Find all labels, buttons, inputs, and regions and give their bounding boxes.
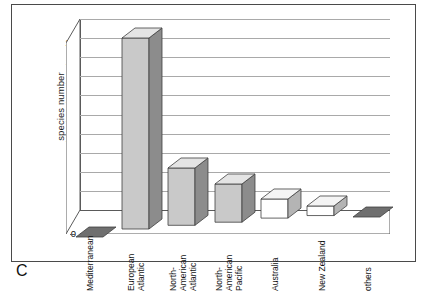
bar	[74, 218, 118, 241]
chart-figure-frame: species number 02468101214161820 Mediter…	[11, 4, 416, 262]
bar	[120, 24, 164, 238]
bar	[213, 170, 257, 231]
x-tick-label: Mediterranean	[85, 236, 95, 291]
bar-series: MediterraneanEuropean AtlanticNorth- Ame…	[12, 5, 428, 299]
bar	[351, 198, 395, 221]
panel-letter: C	[16, 262, 28, 280]
bar	[259, 185, 303, 227]
x-tick-label: North- American Atlantic	[168, 255, 198, 291]
bar	[305, 192, 349, 225]
x-tick-label: European Atlantic	[126, 254, 146, 291]
bar	[166, 154, 210, 234]
x-tick-label: others	[363, 267, 373, 291]
x-tick-label: North- American Pacific	[214, 255, 244, 291]
x-tick-label: Australia	[270, 257, 280, 291]
x-tick-label: New Zealand	[317, 240, 327, 291]
